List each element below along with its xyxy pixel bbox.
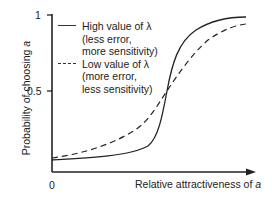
y-axis-label: Probability of choosing a	[20, 28, 32, 168]
x-tick-label-0: 0	[49, 179, 55, 191]
legend-entry-low-lambda: Low value of λ (more error, less sensiti…	[58, 58, 158, 96]
logit-choice-chart: 1 0.5 0 Relative attractiveness of a Pro…	[0, 0, 272, 197]
legend-entry-high-lambda: High value of λ (less error, more sensit…	[58, 20, 158, 58]
dashed-line-swatch-icon	[58, 63, 76, 64]
legend: High value of λ (less error, more sensit…	[58, 20, 158, 95]
y-tick-label-1: 1	[35, 9, 41, 21]
solid-line-swatch-icon	[58, 25, 76, 26]
x-axis-arrow-icon	[246, 169, 256, 176]
x-axis-label: Relative attractiveness of a	[135, 178, 261, 190]
